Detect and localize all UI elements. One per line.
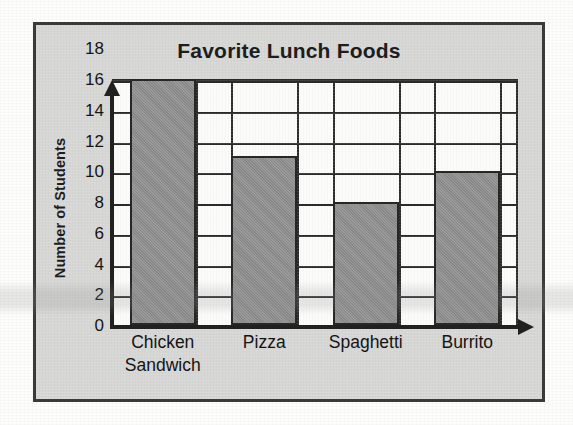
x-tick-label-line: Pizza [214,331,316,354]
arrow-up-icon [104,80,120,96]
column-separator [196,81,198,327]
x-tick-label: Pizza [214,331,316,354]
scanned-page: Favorite Lunch Foods Number of Students … [0,0,573,425]
plot-area [112,79,518,325]
y-tick-label: 12 [70,133,104,150]
y-tick-label: 0 [70,317,104,334]
bar[interactable] [231,156,297,325]
y-tick-label: 6 [70,225,104,242]
y-tick-label: 2 [70,286,104,303]
x-axis-line [110,325,520,329]
x-tick-label: Spaghetti [315,331,417,354]
y-axis-tick-labels: 181614121086420 [70,65,104,325]
column-separator [500,81,502,327]
x-tick-label: ChickenSandwich [112,331,214,377]
bar[interactable] [130,79,196,325]
x-axis-tick-labels: ChickenSandwichPizzaSpaghettiBurrito [112,331,518,395]
y-tick-label: 10 [70,163,104,180]
x-tick-label-line: Sandwich [112,354,214,377]
x-tick-label: Burrito [417,331,519,354]
x-tick-label-line: Spaghetti [315,331,417,354]
column-separator [297,81,299,327]
y-tick-label: 18 [70,40,104,57]
y-axis-title: Number of Students [52,123,68,293]
y-axis-line [110,95,114,329]
bar[interactable] [333,202,399,325]
column-separator [399,81,401,327]
bar[interactable] [434,171,500,325]
arrow-right-icon [518,319,534,335]
y-tick-label: 8 [70,194,104,211]
x-tick-label-line: Chicken [112,331,214,354]
y-tick-label: 4 [70,256,104,273]
y-tick-label: 14 [70,102,104,119]
x-tick-label-line: Burrito [417,331,519,354]
y-tick-label: 16 [70,71,104,88]
chart-figure: Favorite Lunch Foods Number of Students … [33,22,545,402]
chart-title: Favorite Lunch Foods [36,39,542,63]
